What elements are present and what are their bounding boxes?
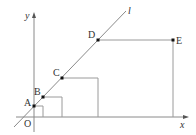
point-b-label: B xyxy=(34,86,41,97)
point-d-label: D xyxy=(88,29,95,40)
point-b xyxy=(42,96,45,99)
point-c-label: C xyxy=(53,67,60,78)
coordinate-diagram: y x O l A B C D E xyxy=(0,0,196,135)
point-d xyxy=(97,39,100,42)
step-c-d xyxy=(62,78,98,117)
point-c xyxy=(61,77,64,80)
point-e xyxy=(172,39,175,42)
line-l-label: l xyxy=(128,5,131,16)
axes xyxy=(16,16,184,132)
line-l xyxy=(14,11,126,127)
point-a-label: A xyxy=(24,97,32,108)
y-axis-label: y xyxy=(24,10,30,21)
y-axis-arrow-icon xyxy=(32,12,36,18)
point-a xyxy=(33,105,36,108)
construction-lines xyxy=(34,40,173,117)
x-axis-label: x xyxy=(179,119,185,130)
origin-label: O xyxy=(24,118,31,129)
point-e-label: E xyxy=(176,35,182,46)
step-b-c xyxy=(43,97,62,117)
step-a-b xyxy=(34,106,43,117)
